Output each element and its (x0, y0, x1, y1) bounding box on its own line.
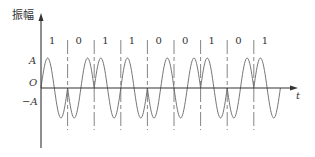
origin-label: O (29, 78, 37, 88)
psk-waveform-diagram: 振幅 t A O −A 101100101 (0, 0, 315, 157)
waveform-canvas (0, 0, 315, 157)
bit-label: 1 (102, 36, 108, 46)
y-axis-arrow-icon (39, 13, 44, 21)
bit-label: 1 (262, 36, 268, 46)
bit-label: 0 (155, 36, 161, 46)
amplitude-label: A (29, 56, 36, 66)
y-axis-label: 振幅 (12, 10, 34, 21)
x-axis-label: t (296, 91, 300, 101)
bit-label: 0 (76, 36, 82, 46)
bit-label: 1 (209, 36, 215, 46)
bit-label: 1 (129, 36, 135, 46)
neg-amplitude-label: −A (22, 97, 38, 107)
bit-label: 0 (182, 36, 188, 46)
bit-label: 1 (49, 36, 55, 46)
bit-label: 0 (235, 36, 241, 46)
